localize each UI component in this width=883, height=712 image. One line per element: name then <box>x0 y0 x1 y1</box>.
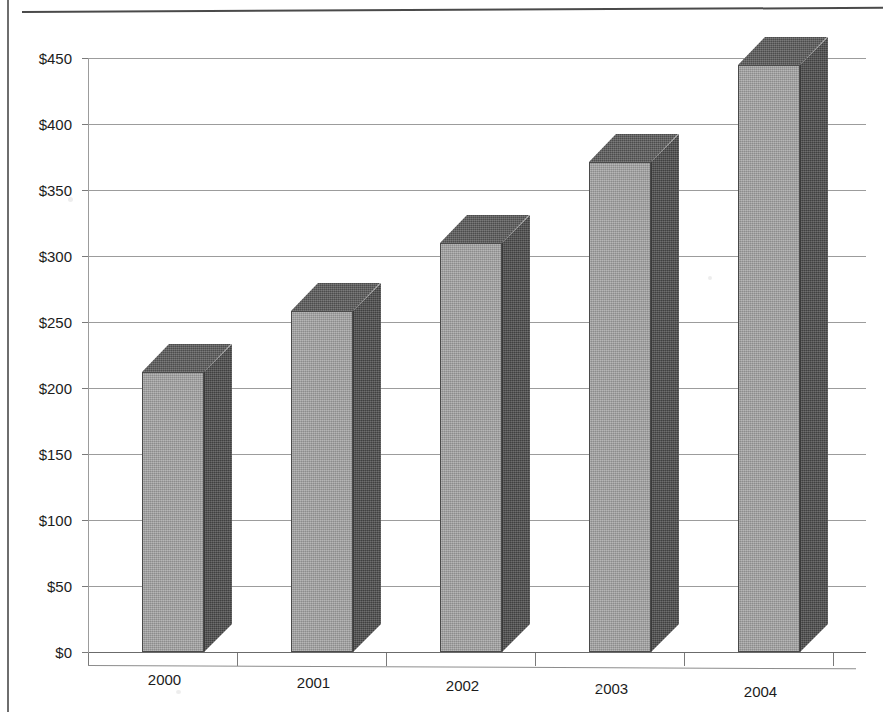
y-axis-label: $150 <box>0 447 72 462</box>
x-axis-tick <box>237 653 238 666</box>
y-axis-label: $0 <box>0 645 72 660</box>
y-axis-label: $300 <box>0 249 72 264</box>
bar-side-face <box>204 344 232 652</box>
bar-front-face <box>142 372 204 652</box>
x-axis-label: 2002 <box>388 678 537 693</box>
scan-artifact <box>176 690 181 694</box>
y-axis-label: $100 <box>0 513 72 528</box>
bar-side-face <box>800 37 828 652</box>
x-axis-tick <box>535 653 536 666</box>
bar-front-face <box>291 311 353 652</box>
y-axis-label: $250 <box>0 315 72 330</box>
bar-front-face <box>589 162 651 652</box>
bar-front-face <box>738 65 800 652</box>
y-axis-label: $200 <box>0 381 72 396</box>
y-axis-label: $350 <box>0 183 72 198</box>
x-axis-baseline <box>88 652 866 653</box>
scan-artifact <box>708 276 712 280</box>
scanned-page: $450$400$350$300$250$200$150$100$50$0200… <box>0 0 883 712</box>
scan-artifact <box>596 686 602 690</box>
bar-side-face <box>651 134 679 652</box>
scan-artifact <box>68 197 73 202</box>
x-axis-tick <box>386 653 387 666</box>
x-axis-tick <box>684 653 685 666</box>
x-axis-label: 2003 <box>537 681 686 696</box>
x-axis-label: 2004 <box>686 684 835 699</box>
bar-side-face <box>353 283 381 652</box>
bar-chart: $450$400$350$300$250$200$150$100$50$0200… <box>0 0 883 712</box>
bar-side-face <box>502 215 530 652</box>
y-axis-label: $50 <box>0 579 72 594</box>
bar-front-face <box>440 243 502 652</box>
x-axis-tick <box>833 653 834 666</box>
x-axis-label: 2000 <box>90 672 239 687</box>
y-axis-label: $400 <box>0 117 72 132</box>
y-axis-label: $450 <box>0 51 72 66</box>
x-axis-band-rule <box>88 665 856 669</box>
y-axis-line <box>88 58 89 666</box>
x-axis-label: 2001 <box>239 675 388 690</box>
